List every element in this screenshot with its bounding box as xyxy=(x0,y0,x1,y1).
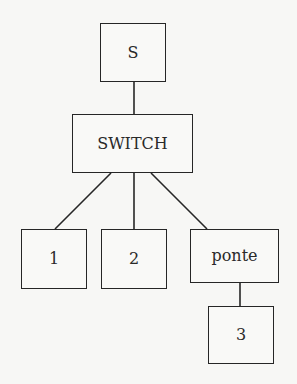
node-label: SWITCH xyxy=(97,136,168,152)
node-label: S xyxy=(128,45,139,61)
node-s: S xyxy=(100,23,166,82)
edge-switch-ponte xyxy=(151,173,207,229)
node-3: 3 xyxy=(208,306,274,364)
edge-switch-1 xyxy=(55,173,111,229)
node-ponte: ponte xyxy=(190,229,279,283)
node-label: 2 xyxy=(129,251,139,267)
node-switch: SWITCH xyxy=(72,114,193,173)
tree-diagram: S SWITCH 1 2 ponte 3 xyxy=(0,0,297,384)
node-2: 2 xyxy=(101,229,167,289)
node-label: 1 xyxy=(49,251,59,267)
node-label: 3 xyxy=(236,327,246,343)
node-1: 1 xyxy=(21,229,87,289)
node-label: ponte xyxy=(211,248,257,264)
